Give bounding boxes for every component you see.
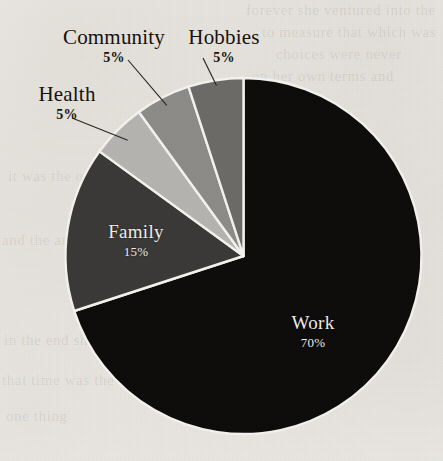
pie-svg (0, 0, 443, 461)
slice-category-work: Work (292, 312, 335, 333)
slice-category-family: Family (108, 221, 164, 242)
slice-percent-community: 5% (48, 51, 180, 65)
slice-percent-family: 15% (76, 245, 196, 259)
slice-category-community: Community (63, 25, 165, 49)
slice-label-health: Health 5% (4, 84, 130, 123)
leader-line-community (128, 60, 167, 105)
pie-chart: Health 5% Community 5% Hobbies 5% Family… (0, 0, 443, 461)
slice-percent-health: 5% (4, 108, 130, 122)
slice-label-community: Community 5% (48, 27, 180, 66)
slice-label-family: Family 15% (76, 222, 196, 259)
slice-percent-work: 70% (254, 336, 372, 350)
pie-chart-page: forever she ventured into the to measure… (0, 0, 443, 461)
slice-category-health: Health (38, 82, 95, 106)
slice-label-work: Work 70% (254, 313, 372, 350)
slice-category-hobbies: Hobbies (188, 25, 259, 49)
slice-label-hobbies: Hobbies 5% (172, 27, 276, 66)
slice-percent-hobbies: 5% (172, 51, 276, 65)
